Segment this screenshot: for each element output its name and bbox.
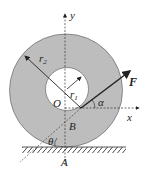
diagram-canvas: y x F O r1 r2 α θ B A: [0, 0, 151, 179]
label-A: A: [60, 156, 68, 168]
label-F: F: [128, 75, 137, 89]
label-alpha: α: [98, 96, 104, 108]
label-B: B: [69, 120, 76, 132]
label-theta: θ: [48, 135, 54, 147]
label-O: O: [53, 97, 61, 109]
figure-rolling-spool: y x F O r1 r2 α θ B A: [0, 0, 151, 179]
label-y: y: [69, 9, 75, 21]
label-x: x: [126, 111, 132, 123]
ground-hatch: [22, 147, 126, 153]
